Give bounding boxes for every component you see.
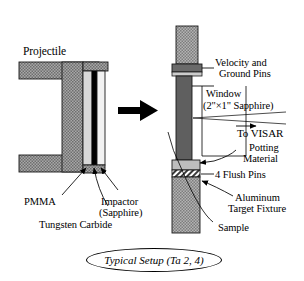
potting-label-line1: Potting [249,142,279,153]
velocity-ground-pins-band [172,64,202,72]
projectile-label: Projectile [23,46,66,57]
pmma-layer [83,71,92,165]
diagram-vector-layer [0,0,304,281]
velocity-pins-label-line2: Ground Pins [219,68,271,79]
potting-material [172,160,200,170]
tungsten-carbide-layer [92,71,97,165]
potting-label-line2: Material [243,153,278,164]
to-visar-label: To VISAR [237,128,283,139]
window-label-line1: Window [206,88,241,99]
impactor-label-line2: (Sapphire) [99,207,142,218]
fixture-label-line1: Aluminum [235,192,280,203]
velocity-pins-label-line1: Velocity and [215,57,267,68]
upper-column [176,26,198,64]
figure-canvas: Projectile PMMA Impactor (Sapphire) Tung… [0,0,304,281]
figure-caption: Typical Setup (Ta 2, 4) [86,248,222,272]
impactor-sapphire-layer [97,71,105,165]
projectile-assembly [19,62,108,173]
flush-pins-band [172,170,200,177]
sapphire-window [176,76,192,160]
fixture-label-line2: Target Fixture [228,203,286,214]
sample-label: Sample [218,222,249,233]
tungsten-carbide-label: Tungsten Carbide [39,219,112,230]
aluminum-target-fixture [172,177,200,233]
impact-direction-arrow [118,100,158,121]
pmma-label: PMMA [24,196,56,207]
window-label-line2: (2"×1" Sapphire) [203,100,273,111]
flush-pins-label: 4 Flush Pins [215,169,266,180]
impactor-label-line1: Impactor [101,196,138,207]
